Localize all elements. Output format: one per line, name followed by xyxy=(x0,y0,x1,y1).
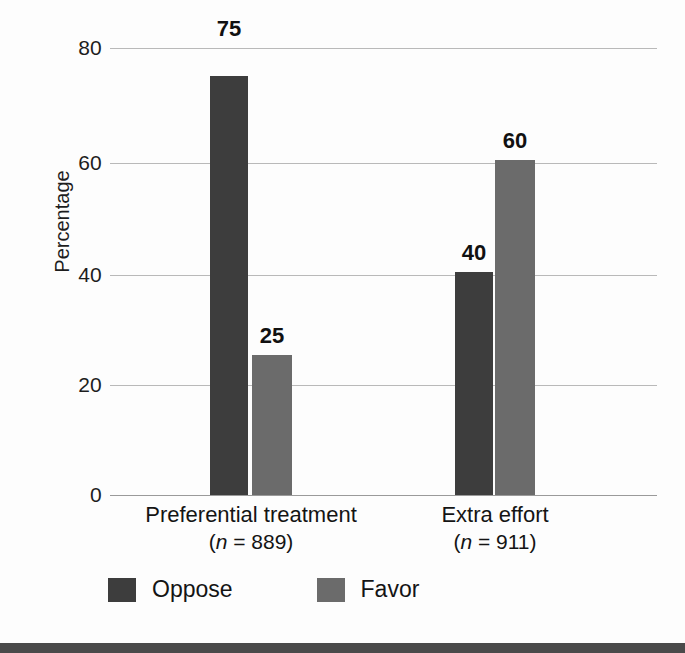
n-symbol-2: n xyxy=(460,530,472,553)
chart-legend: Oppose Favor xyxy=(108,576,419,603)
y-tick-80: 80 xyxy=(58,36,102,60)
plot-area: 75 25 40 60 xyxy=(110,48,657,495)
n-prefix-2: ( xyxy=(453,530,460,553)
gridline-20 xyxy=(110,385,657,386)
y-tick-60: 60 xyxy=(58,151,102,175)
footer-band xyxy=(0,643,685,653)
x-category-label-extra-effort: Extra effort (n = 911) xyxy=(441,502,548,554)
bar-chart-figure: Percentage 80 60 40 20 0 75 25 40 60 Pre… xyxy=(0,0,685,653)
gridline-80 xyxy=(110,48,657,49)
legend-label-favor: Favor xyxy=(361,576,420,603)
gridline-zero-axis xyxy=(110,495,657,496)
bar-value-extra-effort-oppose: 40 xyxy=(462,240,486,266)
y-tick-20: 20 xyxy=(58,373,102,397)
x-category-label-preferential-treatment: Preferential treatment (n = 889) xyxy=(145,502,357,554)
x-category-title-2: Extra effort xyxy=(441,502,548,527)
bar-extra-effort-oppose[interactable] xyxy=(455,272,493,495)
x-category-n-2: (n = 911) xyxy=(441,529,548,555)
y-tick-40: 40 xyxy=(58,263,102,287)
legend-item-oppose[interactable]: Oppose xyxy=(108,576,233,603)
gridline-60 xyxy=(110,163,657,164)
legend-label-oppose: Oppose xyxy=(152,576,233,603)
x-category-title-1: Preferential treatment xyxy=(145,502,357,527)
bar-value-extra-effort-favor: 60 xyxy=(503,128,527,154)
y-tick-0: 0 xyxy=(58,483,102,507)
gridline-40 xyxy=(110,275,657,276)
legend-swatch-oppose-icon xyxy=(108,578,136,602)
bar-preferential-treatment-oppose[interactable] xyxy=(210,76,248,495)
legend-item-favor[interactable]: Favor xyxy=(317,576,420,603)
n-suffix-2: = 911) xyxy=(472,530,536,553)
n-symbol-1: n xyxy=(216,530,228,553)
bar-value-preferential-treatment-favor: 25 xyxy=(260,323,284,349)
bar-value-preferential-treatment-oppose: 75 xyxy=(217,16,241,42)
bar-extra-effort-favor[interactable] xyxy=(495,160,535,495)
legend-swatch-favor-icon xyxy=(317,578,345,602)
n-suffix-1: = 889) xyxy=(227,530,293,553)
x-category-n-1: (n = 889) xyxy=(145,529,357,555)
bar-preferential-treatment-favor[interactable] xyxy=(252,355,292,495)
